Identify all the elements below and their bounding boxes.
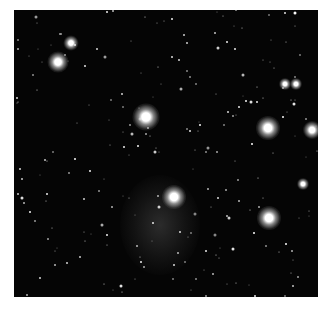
nebula-glow: [120, 175, 200, 275]
faint-star: [234, 48, 236, 50]
faint-star: [140, 261, 142, 263]
faint-star: [130, 41, 131, 42]
faint-star: [128, 154, 129, 155]
faint-star: [57, 248, 58, 249]
faint-star: [204, 269, 205, 270]
faint-star: [135, 279, 136, 280]
bright-star: [290, 78, 302, 90]
faint-star: [238, 106, 240, 108]
faint-star: [189, 76, 191, 78]
faint-star: [282, 116, 284, 118]
faint-star: [171, 56, 173, 58]
faint-star: [199, 121, 200, 122]
bright-star: [162, 185, 186, 209]
faint-star: [225, 189, 227, 191]
faint-star: [110, 99, 112, 101]
faint-star: [84, 232, 85, 233]
faint-star: [308, 215, 309, 216]
bright-star: [256, 116, 280, 140]
faint-star: [29, 211, 31, 213]
faint-star: [37, 89, 38, 90]
faint-star: [216, 151, 218, 153]
faint-star: [272, 152, 273, 153]
faint-star: [17, 39, 19, 41]
faint-star: [236, 115, 237, 116]
faint-star: [45, 200, 46, 201]
faint-star: [226, 284, 227, 285]
faint-star: [79, 256, 81, 258]
faint-star: [222, 15, 223, 16]
faint-star: [294, 12, 297, 15]
faint-star: [207, 188, 209, 190]
faint-star: [156, 23, 157, 24]
faint-star: [206, 146, 209, 149]
faint-star: [141, 72, 142, 73]
faint-star: [121, 93, 123, 95]
faint-star: [54, 251, 55, 252]
star-field-image: [14, 10, 318, 297]
faint-star: [106, 11, 108, 13]
faint-star: [37, 22, 38, 23]
faint-star: [295, 25, 296, 26]
faint-star: [205, 151, 207, 153]
faint-star: [219, 247, 220, 248]
faint-star: [120, 284, 123, 287]
faint-star: [184, 261, 186, 263]
faint-star: [305, 156, 306, 157]
faint-star: [245, 100, 247, 102]
faint-star: [298, 217, 299, 218]
faint-star: [258, 206, 260, 208]
faint-star: [292, 285, 294, 287]
faint-star: [265, 245, 267, 247]
faint-star: [216, 255, 217, 256]
faint-star: [113, 290, 114, 291]
faint-star: [111, 206, 113, 208]
faint-star: [153, 97, 154, 98]
faint-star: [286, 41, 287, 42]
faint-star: [52, 151, 54, 153]
faint-star: [108, 119, 109, 120]
faint-star: [34, 220, 36, 222]
faint-star: [88, 105, 89, 106]
faint-star: [227, 217, 230, 220]
faint-star: [106, 245, 107, 246]
faint-star: [226, 41, 228, 43]
faint-star: [223, 124, 225, 126]
faint-star: [104, 56, 107, 59]
faint-star: [32, 74, 34, 76]
faint-star: [76, 123, 77, 124]
faint-star: [47, 239, 48, 240]
faint-star: [292, 102, 295, 105]
faint-star: [212, 273, 214, 275]
faint-star: [83, 198, 85, 200]
faint-star: [199, 124, 201, 126]
faint-star: [35, 16, 38, 19]
faint-star: [195, 278, 197, 280]
faint-star: [89, 170, 91, 172]
faint-star: [270, 40, 271, 41]
faint-star: [251, 143, 253, 145]
faint-star: [316, 151, 317, 152]
faint-star: [216, 11, 217, 12]
bright-star: [257, 206, 281, 230]
faint-star: [59, 33, 61, 35]
faint-star: [129, 124, 131, 126]
faint-star: [122, 292, 123, 293]
faint-star: [297, 276, 299, 278]
faint-star: [68, 172, 70, 174]
bright-star: [303, 121, 318, 139]
faint-star: [131, 132, 134, 135]
faint-star: [205, 295, 207, 297]
faint-star: [106, 234, 108, 236]
faint-star: [193, 213, 196, 216]
faint-star: [195, 83, 197, 85]
faint-star: [143, 266, 145, 268]
faint-star: [258, 178, 259, 179]
faint-star: [23, 202, 25, 204]
faint-star: [299, 54, 301, 56]
faint-star: [137, 145, 139, 147]
faint-star: [20, 197, 23, 200]
faint-star: [122, 131, 123, 132]
faint-star: [214, 32, 216, 34]
faint-star: [241, 28, 242, 29]
